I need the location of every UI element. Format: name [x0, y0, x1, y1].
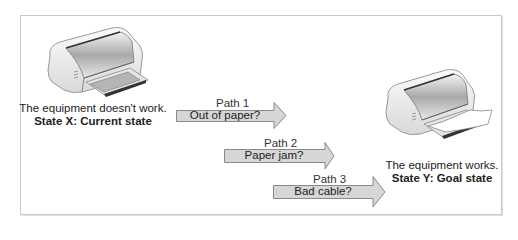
path-2-arrow: Path 2 Paper jam?	[224, 134, 336, 170]
current-state-description: The equipment doesn't work.	[18, 102, 168, 115]
path-3-arrow: Path 3 Bad cable?	[273, 170, 387, 210]
goal-state-label: State Y: Goal state	[382, 172, 502, 185]
printer-with-paper-icon	[384, 66, 494, 148]
path-3-hypothesis: Bad cable?	[273, 185, 373, 197]
current-state-caption: The equipment doesn't work. State X: Cur…	[18, 102, 168, 128]
goal-state-caption: The equipment works. State Y: Goal state	[382, 159, 502, 185]
path-1-arrow: Path 1 Out of paper?	[176, 96, 288, 132]
path-2-hypothesis: Paper jam?	[224, 149, 324, 161]
path-1-hypothesis: Out of paper?	[176, 109, 274, 121]
path-3-label: Path 3	[313, 173, 346, 185]
current-state-label: State X: Current state	[18, 115, 168, 128]
path-2-label: Path 2	[264, 137, 297, 149]
path-1-label: Path 1	[216, 97, 249, 109]
printer-icon	[42, 24, 152, 100]
goal-state-description: The equipment works.	[382, 159, 502, 172]
